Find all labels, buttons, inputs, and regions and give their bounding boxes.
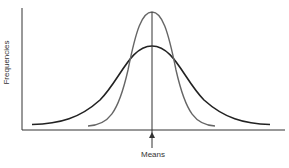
y-axis-label: Frequencies (2, 35, 11, 91)
x-axis-label: Means (132, 150, 174, 159)
chart-canvas (0, 0, 289, 168)
mean-arrow-icon (149, 132, 155, 138)
wide-curve (32, 46, 270, 125)
